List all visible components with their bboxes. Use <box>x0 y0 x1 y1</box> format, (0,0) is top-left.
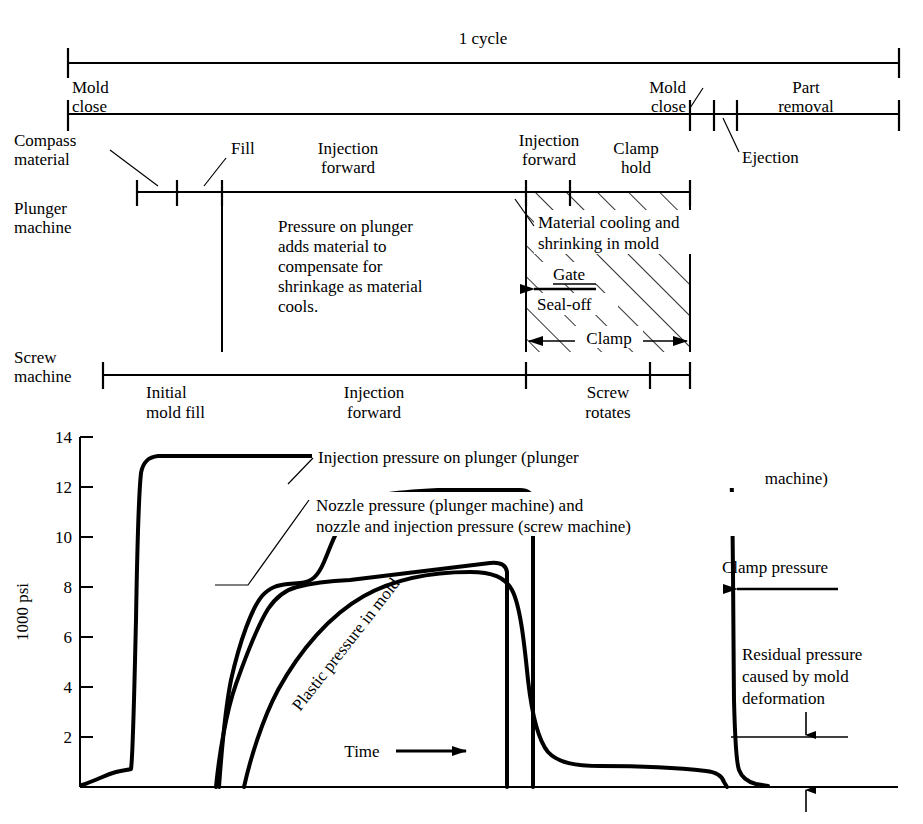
y-tick-label-12: 12 <box>55 478 72 497</box>
y-axis-ticks <box>80 437 93 737</box>
clamp-hold-label-line2: hold <box>621 158 652 177</box>
annotation-residual-line1: Residual pressure <box>742 645 862 664</box>
annotation-injection-leader <box>288 458 313 484</box>
y-tick-label-14: 14 <box>55 428 73 447</box>
annotation-residual-line2: caused by mold <box>742 667 849 686</box>
injection-forward2-label-line2: forward <box>522 150 576 169</box>
compass-material-label-line1: Compass <box>14 131 76 150</box>
mold-close2-leader-line <box>690 88 703 108</box>
injection-forward-label-line2: forward <box>321 158 375 177</box>
annotation-injection-line1: Injection pressure on plunger (plunger <box>318 448 579 467</box>
y-axis-title: 1000 psi <box>13 583 32 641</box>
cooling-note-line-1: Material cooling and <box>538 213 680 232</box>
cycle-label: 1 cycle <box>459 29 508 48</box>
clamp-hold-label-line1: Clamp <box>613 139 658 158</box>
annotation-residual-line3: deformation <box>742 689 826 708</box>
annotation-clamp-pressure-label: Clamp pressure <box>722 558 828 577</box>
screw-injection-forward-line1: Injection <box>344 383 405 402</box>
clamp-label: Clamp <box>586 329 631 348</box>
y-axis-tick-labels: 14 12 10 8 6 4 2 <box>55 428 73 747</box>
plunger-note-line-5: cools. <box>278 297 318 316</box>
figure-root: 1 cycle Mold close Mold close Part remov… <box>0 0 923 824</box>
plunger-note-line-2: adds material to <box>278 237 387 256</box>
part-removal-label-line2: removal <box>778 97 834 116</box>
cooling-note-line-2: shrinking in mold <box>538 234 659 253</box>
ejection-label: Ejection <box>742 148 799 167</box>
screw-machine-label-line2: machine <box>14 367 72 386</box>
y-tick-label-4: 4 <box>64 678 73 697</box>
annotation-injection-line2: machine) <box>765 469 828 488</box>
plunger-machine-label-line1: Plunger <box>14 199 67 218</box>
mold-close-row-group: Mold close Mold close Part removal Eject… <box>68 78 899 167</box>
plunger-note-line-3: compensate for <box>278 257 383 276</box>
mold-close-label-line1: Mold <box>72 78 109 97</box>
injection-forward-label-line1: Injection <box>318 139 379 158</box>
seal-off-label: Seal-off <box>537 295 592 314</box>
annotation-nozzle-line1: Nozzle pressure (plunger machine) and <box>316 496 584 515</box>
compass-leader-line <box>110 150 158 186</box>
screw-row-group: Screw machine Initial mold fill Injectio… <box>14 348 690 422</box>
injection-molding-figure: 1 cycle Mold close Mold close Part remov… <box>0 0 923 824</box>
annotation-injection-pressure: Injection pressure on plunger (plunger m… <box>288 444 828 488</box>
screw-injection-forward-line2: forward <box>347 403 401 422</box>
pressure-chart: 14 12 10 8 6 4 2 1000 psi Injection pres… <box>13 428 898 812</box>
y-tick-label-10: 10 <box>55 528 72 547</box>
screw-rotates-line1: Screw <box>587 383 630 402</box>
screw-rotates-line2: rotates <box>585 403 630 422</box>
plunger-note-line-1: Pressure on plunger <box>278 217 413 236</box>
fill-label: Fill <box>231 139 255 158</box>
time-axis-label-group: Time <box>344 742 466 761</box>
cycle-bar-group: 1 cycle <box>68 29 899 78</box>
injection-forward2-label-line1: Injection <box>519 131 580 150</box>
annotation-clamp-pressure: Clamp pressure <box>722 558 838 589</box>
part-removal-label-line1: Part <box>792 78 820 97</box>
initial-mold-fill-line1: Initial <box>146 383 187 402</box>
annotation-nozzle-line2: nozzle and injection pressure (screw mac… <box>316 517 631 536</box>
cooling-hatched-block: Material cooling and shrinking in mold G… <box>515 192 714 352</box>
compass-material-label-line2: material <box>14 150 70 169</box>
x-axis-title: Time <box>344 742 379 761</box>
mold-close2-label-line1: Mold <box>649 78 686 97</box>
plunger-machine-label-line2: machine <box>14 218 72 237</box>
annotation-plastic-pressure: Plastic pressure in mold <box>288 574 404 714</box>
gate-label: Gate <box>553 265 585 284</box>
y-tick-label-2: 2 <box>64 728 73 747</box>
initial-mold-fill-line2: mold fill <box>146 403 205 422</box>
screw-machine-label-line1: Screw <box>14 348 57 367</box>
plunger-note-line-4: shrinkage as material <box>278 277 423 296</box>
mold-close-label-line2: close <box>72 97 107 116</box>
y-tick-label-8: 8 <box>64 578 73 597</box>
y-tick-label-6: 6 <box>64 628 73 647</box>
mold-close2-label-line2: close <box>651 97 686 116</box>
